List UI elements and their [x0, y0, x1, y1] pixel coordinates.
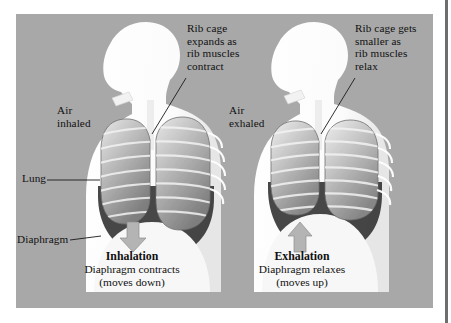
caption-inhalation-line1: Diaphragm contracts	[62, 263, 202, 276]
caption-exhalation-line1: Diaphragm relaxes	[232, 263, 372, 276]
label-air-exhaled: Air exhaled	[229, 104, 265, 129]
caption-inhalation-line2: (moves down)	[62, 276, 202, 289]
caption-inhalation-title: Inhalation	[62, 250, 202, 263]
caption-exhalation-line2: (moves up)	[232, 276, 372, 289]
air-arrow-inhaled	[112, 92, 133, 106]
caption-exhalation: Exhalation Diaphragm relaxes (moves up)	[232, 250, 372, 290]
label-lung: Lung	[22, 172, 46, 185]
callout-ribcage-inhalation: Rib cage expands as rib muscles contract	[187, 22, 239, 72]
caption-exhalation-title: Exhalation	[232, 250, 372, 263]
caption-inhalation: Inhalation Diaphragm contracts (moves do…	[62, 250, 202, 290]
label-air-inhaled: Air inhaled	[57, 104, 91, 129]
label-diaphragm: Diaphragm	[17, 233, 68, 246]
callout-ribcage-exhalation: Rib cage gets smaller as rib muscles rel…	[355, 22, 417, 72]
breathing-diagram: Rib cage expands as rib muscles contract…	[0, 0, 451, 323]
